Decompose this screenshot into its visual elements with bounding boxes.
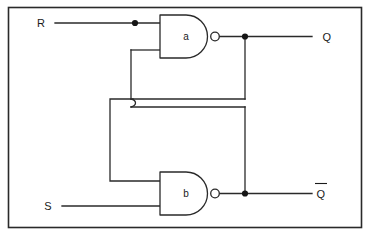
label-output-q: Q bbox=[323, 31, 332, 43]
logic-diagram-canvas: R S Q Q a b bbox=[0, 0, 371, 235]
wire-feedback-q-to-gate-b bbox=[110, 99, 160, 181]
wire-crossover-hop bbox=[131, 99, 136, 107]
junction-q-output bbox=[242, 33, 248, 39]
label-input-r: R bbox=[37, 17, 45, 29]
junction-r-input bbox=[132, 20, 138, 26]
gate-b-bubble bbox=[211, 189, 220, 198]
junction-qbar-output bbox=[242, 190, 248, 196]
gate-a-bubble bbox=[211, 32, 220, 41]
label-input-s: S bbox=[44, 200, 52, 212]
label-gate-b: b bbox=[183, 188, 189, 199]
label-gate-a: a bbox=[183, 31, 189, 42]
label-output-qbar: Q bbox=[317, 188, 326, 200]
circuit-schematic: R S Q Q a b bbox=[0, 0, 371, 235]
